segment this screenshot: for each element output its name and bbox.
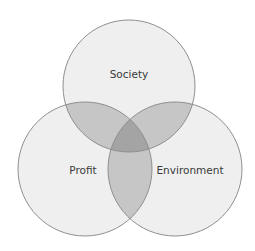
profit-label: Profit [69, 164, 96, 176]
environment-label: Environment [156, 164, 223, 176]
venn-diagram: Society Profit Environment [0, 0, 255, 251]
society-label: Society [110, 68, 149, 80]
